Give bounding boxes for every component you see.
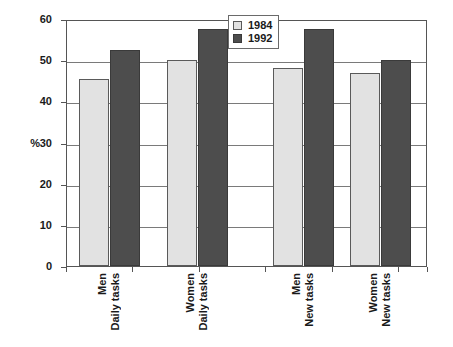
x-axis-tick [132,267,133,272]
x-axis-tick [427,267,428,272]
bar [381,60,411,266]
x-axis-category-label: WomenNew tasks [367,273,393,347]
x-axis-tick [332,267,333,272]
bar-chart: % 6050403020100 1984 1992 MenDaily tasks… [0,0,453,347]
y-tick-label: 40 [26,96,52,107]
y-tick-label: 0 [26,261,52,272]
legend-label-1984: 1984 [248,20,272,31]
bar [198,29,228,266]
x-axis-tick [66,267,67,272]
bar [350,73,380,266]
bar [167,60,197,266]
category-label-line1: Men [290,273,303,295]
plot-area [66,20,427,267]
bar [79,79,109,266]
legend-item-1992: 1992 [233,32,272,45]
category-label-line2: Daily tasks [197,273,210,330]
bar [304,29,334,266]
light-gray-swatch-icon [233,21,242,30]
x-axis-category-label: WomenDaily tasks [184,273,210,347]
bar [110,50,140,266]
category-label-line2: Daily tasks [109,273,122,330]
category-label-line2: New tasks [303,273,316,327]
dark-gray-swatch-icon [233,34,242,43]
y-tick-label: 30 [26,138,52,149]
category-label-line1: Women [367,273,380,313]
bar [273,68,303,266]
category-label-line2: New tasks [380,273,393,327]
y-tick-label: 60 [26,14,52,25]
x-axis-tick [398,267,399,272]
x-axis-tick [199,267,200,272]
category-label-line1: Women [184,273,197,313]
x-axis-category-label: MenDaily tasks [96,273,122,347]
x-axis-category-label: MenNew tasks [290,273,316,347]
legend-item-1984: 1984 [233,19,272,32]
category-label-line1: Men [96,273,109,295]
y-tick-label: 50 [26,55,52,66]
x-axis-tick [265,267,266,272]
y-tick-label: 10 [26,220,52,231]
y-tick-label: 20 [26,179,52,190]
legend: 1984 1992 [228,15,279,49]
legend-label-1992: 1992 [248,33,272,44]
